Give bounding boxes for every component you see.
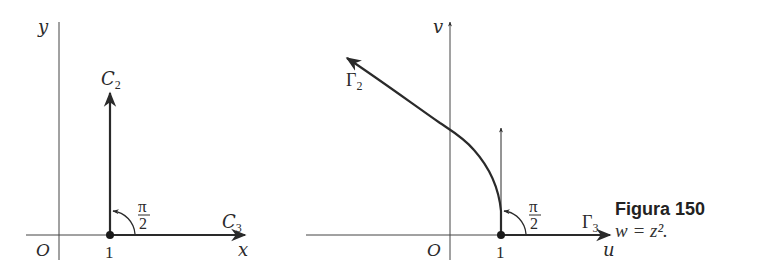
gamma2-label: Γ2 [346, 70, 362, 93]
origin-label: O [36, 240, 50, 260]
left-plot: y x O 1 C2 C3 π 2 [26, 16, 248, 262]
angle-label: π 2 [138, 197, 150, 232]
c3-label: C3 [222, 211, 242, 235]
figure-caption-title: Figura 150 [615, 199, 705, 220]
v-axis-label: v [433, 16, 443, 37]
curve-gamma2 [347, 58, 501, 235]
x-axis-label: x [238, 239, 248, 260]
svg-text:2: 2 [530, 215, 538, 232]
point-label: 1 [105, 243, 114, 262]
svg-text:π: π [138, 197, 147, 216]
svg-text:2: 2 [139, 215, 147, 232]
angle-label: π 2 [529, 197, 541, 232]
point-label: 1 [496, 243, 505, 262]
angle-arc [504, 211, 526, 234]
y-axis-label: y [37, 16, 49, 37]
point-one [106, 231, 114, 239]
gamma3-label: Γ3 [582, 212, 598, 235]
angle-arc [113, 211, 135, 234]
u-axis-label: u [603, 239, 615, 260]
c2-label: C2 [101, 68, 121, 92]
figure-caption-equation: w = z². [615, 220, 668, 242]
point-one [497, 231, 505, 239]
right-plot: v u O 1 Γ2 Γ3 π 2 [306, 16, 615, 262]
origin-label: O [427, 240, 441, 260]
svg-text:π: π [529, 197, 538, 216]
